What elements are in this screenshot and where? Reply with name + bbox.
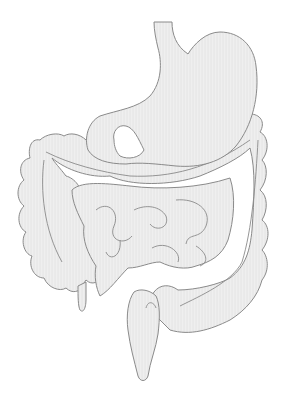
small-intestine <box>72 178 234 296</box>
appendix <box>78 282 86 311</box>
rectum <box>127 290 159 381</box>
digestive-system-illustration <box>0 0 294 400</box>
stomach <box>87 22 258 166</box>
